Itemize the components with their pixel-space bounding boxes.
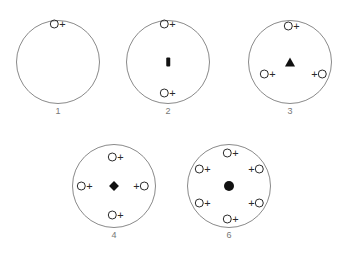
ligand-plus-icon: + [248,199,254,208]
coordination-diagram-figure: +1++2+++3++++4++++++6 [0,0,337,256]
ligand-top: + [50,20,66,29]
ligand-plus-icon: + [311,70,317,79]
ligand-upper-left: + [195,165,211,174]
diagram-caption: 6 [226,230,231,240]
ligand-circle-icon [140,182,149,191]
coordination-sphere-ring [16,20,100,104]
ligand-plus-icon: + [133,182,139,191]
diagram-caption: 1 [55,106,60,116]
ligand-lower-right: + [248,199,264,208]
ligand-circle-icon [223,215,232,224]
ligand-lower-right: + [311,70,327,79]
ligand-plus-icon: + [169,89,175,98]
ligand-top: + [108,153,124,162]
ligand-circle-icon [50,20,59,29]
ligand-top: + [284,22,300,31]
ligand-circle-icon [195,199,204,208]
ligand-circle-icon [223,149,232,158]
ligand-plus-icon: + [204,199,210,208]
ligand-circle-icon [318,70,327,79]
ligand-plus-icon: + [117,211,123,220]
ligand-lower-left: + [195,199,211,208]
ligand-plus-icon: + [293,22,299,31]
center-marker-bar-icon [166,58,170,67]
ligand-lower-left: + [260,70,276,79]
ligand-plus-icon: + [204,165,210,174]
ligand-plus-icon: + [248,165,254,174]
ligand-upper-right: + [248,165,264,174]
diagram-caption: 2 [165,106,170,116]
ligand-top: + [223,149,239,158]
ligand-plus-icon: + [117,153,123,162]
ligand-bottom: + [108,211,124,220]
ligand-plus-icon: + [269,70,275,79]
ligand-circle-icon [255,199,264,208]
center-marker-triangle-icon [285,58,295,67]
ligand-circle-icon [260,70,269,79]
ligand-circle-icon [284,22,293,31]
ligand-circle-icon [195,165,204,174]
ligand-plus-icon: + [232,149,238,158]
ligand-plus-icon: + [232,215,238,224]
ligand-right: + [133,182,149,191]
ligand-circle-icon [255,165,264,174]
ligand-bottom: + [223,215,239,224]
ligand-bottom: + [160,89,176,98]
figure-title [0,0,337,2]
ligand-top: + [160,20,176,29]
ligand-plus-icon: + [169,20,175,29]
diagram-caption: 3 [287,106,292,116]
ligand-circle-icon [108,211,117,220]
ligand-circle-icon [108,153,117,162]
ligand-plus-icon: + [59,20,65,29]
ligand-plus-icon: + [86,182,92,191]
ligand-circle-icon [160,89,169,98]
diagram-caption: 4 [111,230,116,240]
ligand-circle-icon [77,182,86,191]
ligand-left: + [77,182,93,191]
ligand-circle-icon [160,20,169,29]
center-marker-dot-icon [224,181,234,191]
